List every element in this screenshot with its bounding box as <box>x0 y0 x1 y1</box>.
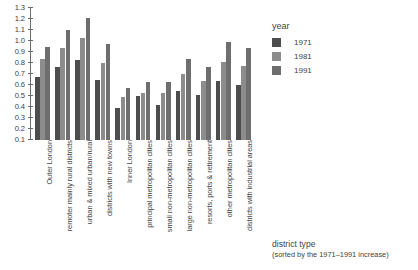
legend-label: 1991 <box>294 67 312 75</box>
bar <box>45 47 50 141</box>
y-axis-tick-label: 0.8 <box>15 59 25 67</box>
x-axis-title-block: district type (sorted by the 1971–1991 i… <box>272 239 417 259</box>
bar <box>146 82 151 140</box>
legend-label: 1981 <box>294 53 312 61</box>
legend-entries: 197119811991 <box>272 38 372 75</box>
bar <box>181 74 186 140</box>
legend-swatch <box>272 38 281 47</box>
legend: year 197119811991 <box>272 22 372 80</box>
x-axis-category-label: districts with new towns <box>103 140 110 216</box>
legend-entry: 1991 <box>272 66 372 75</box>
bar <box>186 59 191 140</box>
plot-area: 0.10.20.30.40.50.60.70.80.91.01.11.21.3 <box>30 8 252 140</box>
x-axis-category-label: principal metropolitan cities <box>143 140 150 228</box>
bar <box>106 44 111 140</box>
bar <box>80 38 85 140</box>
bar <box>241 66 246 140</box>
bar <box>221 62 226 140</box>
legend-title: year <box>272 22 372 31</box>
x-axis-category-label: Outer London <box>43 140 50 185</box>
x-axis-category-label-text: remoter mainly rural districts <box>65 140 72 231</box>
bar <box>126 88 131 140</box>
y-axis-tick-label: 0.5 <box>15 92 25 100</box>
y-axis-tick-label: 1.3 <box>15 4 25 12</box>
x-axis-category-label: other metropolitan cities <box>223 140 230 217</box>
x-axis-category-label: large non-metropolitan cities <box>183 140 190 231</box>
x-axis-category-label: urban & mixed urban/rural <box>83 140 90 224</box>
x-axis-category-label-text: resorts, ports & retirement <box>206 140 213 224</box>
y-axis-tick-label: 0.7 <box>15 70 25 78</box>
x-axis-category-label-text: districts with industrial areas <box>246 140 253 231</box>
x-axis-title: district type <box>272 239 417 250</box>
bar <box>121 97 126 140</box>
x-axis-category-labels: Outer Londonremoter mainly rural distric… <box>31 140 252 265</box>
bar <box>55 67 60 140</box>
y-axis-tick-label: 0.6 <box>15 81 25 89</box>
bar <box>60 48 65 140</box>
y-axis-tick-label: 0.1 <box>15 136 25 144</box>
x-axis-category-label-text: Outer London <box>45 140 52 185</box>
x-axis-category-label: districts with industrial areas <box>243 140 250 231</box>
x-axis-category-label: resorts, ports & retirement <box>203 140 210 224</box>
bar <box>226 42 231 140</box>
x-axis-category-label-text: principal metropolitan cities <box>146 140 153 228</box>
y-axis-tick-label: 0.3 <box>15 114 25 122</box>
bar <box>141 93 146 140</box>
legend-label: 1971 <box>294 39 312 47</box>
bar <box>176 91 181 141</box>
y-axis-tick-label: 1.1 <box>15 26 25 34</box>
bar <box>75 60 80 140</box>
y-axis-tick-label: 1.2 <box>15 15 25 23</box>
bar <box>86 18 91 140</box>
legend-swatch <box>272 52 281 61</box>
legend-swatch <box>272 66 281 75</box>
y-axis-tick-label: 1.0 <box>15 37 25 45</box>
x-axis-category-label-text: urban & mixed urban/rural <box>85 140 92 224</box>
x-axis-category-label-text: small non-metropolitan cities <box>166 140 173 232</box>
y-axis-tick-label: 0.2 <box>15 125 25 133</box>
bar <box>40 59 45 140</box>
bar <box>196 95 201 140</box>
legend-entry: 1981 <box>272 52 372 61</box>
bar-chart: 0.10.20.30.40.50.60.70.80.91.01.11.21.3 … <box>0 0 418 270</box>
bar <box>101 63 106 140</box>
bars-layer <box>31 8 252 140</box>
bar <box>136 96 141 140</box>
bar <box>156 105 161 140</box>
x-axis-category-label-text: districts with new towns <box>105 140 112 216</box>
bar <box>201 81 206 140</box>
bar <box>115 108 120 140</box>
bar <box>35 77 40 140</box>
x-axis-category-label-text: other metropolitan cities <box>226 140 233 217</box>
bar <box>216 81 221 140</box>
x-axis-category-label-text: Inner London <box>126 140 133 183</box>
bar <box>66 30 71 140</box>
bar <box>95 80 100 141</box>
x-axis-subtitle: (sorted by the 1971–1991 increase) <box>272 250 417 259</box>
x-axis-category-label: Inner London <box>123 140 130 183</box>
bar <box>236 85 241 140</box>
bar <box>246 48 251 140</box>
x-axis-category-label: remoter mainly rural districts <box>63 140 70 231</box>
bar <box>206 67 211 140</box>
x-axis-category-label-text: large non-metropolitan cities <box>186 140 193 231</box>
bar <box>166 82 171 140</box>
legend-entry: 1971 <box>272 38 372 47</box>
y-axis-tick-label: 0.4 <box>15 103 25 111</box>
y-axis-tick-label: 0.9 <box>15 48 25 56</box>
bar <box>161 93 166 140</box>
x-axis-category-label: small non-metropolitan cities <box>163 140 170 232</box>
